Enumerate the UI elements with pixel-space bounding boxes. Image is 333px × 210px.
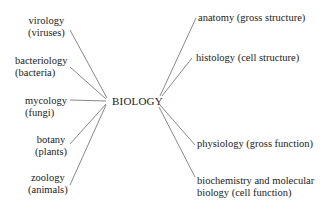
- label-mycology-line2: (fungi): [25, 107, 67, 119]
- label-histology-line1: histology (cell structure): [196, 52, 299, 64]
- connector-zoology: [70, 105, 106, 185]
- label-histology: histology (cell structure): [196, 52, 299, 64]
- label-virology-line1: virology: [28, 15, 65, 27]
- biology-branch-diagram: virology (viruses) bacteriology (bacteri…: [0, 0, 333, 210]
- label-virology: virology (viruses): [28, 15, 65, 39]
- label-mycology-line1: mycology: [25, 95, 67, 107]
- label-mycology: mycology (fungi): [25, 95, 67, 119]
- label-physiology: physiology (gross function): [197, 138, 313, 150]
- connector-bacteriology: [70, 67, 106, 99]
- label-anatomy: anatomy (gross structure): [198, 12, 305, 24]
- center-label-biology: BIOLOGY: [112, 95, 163, 107]
- label-zoology: zoology (animals): [28, 172, 68, 196]
- label-zoology-line2: (animals): [28, 184, 68, 196]
- label-biochemistry-line2: biology (cell function): [197, 187, 314, 199]
- connector-virology: [70, 30, 107, 98]
- label-biochemistry: biochemistry and molecular biology (cell…: [197, 175, 314, 199]
- label-virology-line2: (viruses): [28, 27, 65, 39]
- label-anatomy-line1: anatomy (gross structure): [198, 12, 305, 24]
- connector-physiology: [160, 105, 195, 145]
- label-physiology-line1: physiology (gross function): [197, 138, 313, 150]
- connector-mycology: [70, 100, 106, 101]
- label-bacteriology-line1: bacteriology: [15, 55, 67, 67]
- connector-botany: [70, 104, 106, 144]
- label-botany-line1: botany: [35, 134, 67, 146]
- label-botany-line2: (plants): [35, 146, 67, 158]
- label-biochemistry-line1: biochemistry and molecular: [197, 175, 314, 187]
- connector-histology: [162, 58, 192, 96]
- label-zoology-line1: zoology: [28, 172, 68, 184]
- label-bacteriology-line2: (bacteria): [15, 67, 67, 79]
- label-botany: botany (plants): [35, 134, 67, 158]
- connector-biochemistry: [159, 107, 195, 177]
- label-bacteriology: bacteriology (bacteria): [15, 55, 67, 79]
- connector-anatomy: [160, 18, 196, 96]
